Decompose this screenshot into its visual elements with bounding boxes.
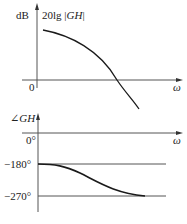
phase-plot: ∠GH 0° −180° −270° ω (4, 112, 183, 212)
magnitude-y-arrow-icon (35, 3, 39, 10)
phase-tick-minus-270: −270° (4, 190, 31, 202)
phase-y-arrow-icon (36, 113, 40, 120)
bode-diagram: dB 20lg |GH| 0 ω ∠GH 0° −180° −270° ω (0, 0, 187, 224)
phase-curve (38, 164, 145, 196)
magnitude-y-label: 20lg |GH| (42, 9, 85, 21)
phase-y-label: ∠GH (10, 112, 36, 124)
magnitude-curve (43, 30, 139, 109)
magnitude-plot: dB 20lg |GH| 0 ω (16, 3, 183, 109)
magnitude-origin-label: 0 (29, 81, 35, 93)
magnitude-x-label: ω (173, 81, 181, 93)
magnitude-y-unit: dB (16, 9, 29, 21)
phase-tick-minus-180: −180° (4, 158, 31, 170)
phase-tick-0: 0° (26, 134, 36, 146)
phase-x-label: ω (173, 134, 181, 146)
